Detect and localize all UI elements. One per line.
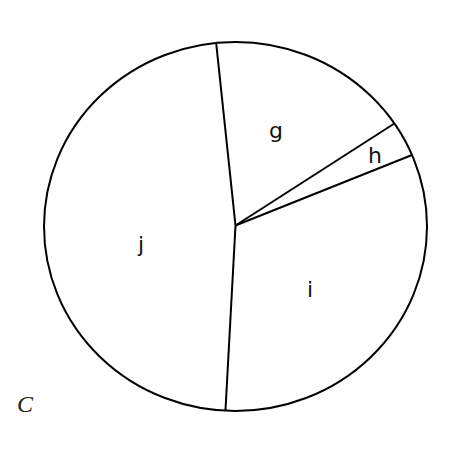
pie-slices (44, 42, 427, 411)
slice-label-h: h (368, 143, 382, 168)
slice-label-i: i (307, 277, 313, 302)
pie-chart: ghij C (0, 0, 455, 468)
panel-label: C (17, 391, 34, 417)
slice-label-g: g (269, 118, 283, 143)
slice-label-j: j (137, 232, 144, 257)
